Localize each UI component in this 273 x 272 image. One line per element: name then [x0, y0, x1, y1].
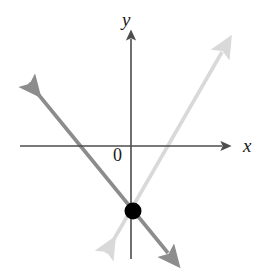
- x-axis-label: x: [243, 136, 251, 155]
- line-dark-decreasing: [29, 83, 168, 253]
- y-axis-label: y: [122, 10, 130, 29]
- origin-label: 0: [113, 146, 122, 164]
- graph-canvas: [0, 0, 273, 272]
- coordinate-plane-figure: y x 0: [0, 0, 273, 272]
- intersection-point: [125, 203, 142, 220]
- line-light-increasing: [106, 52, 222, 253]
